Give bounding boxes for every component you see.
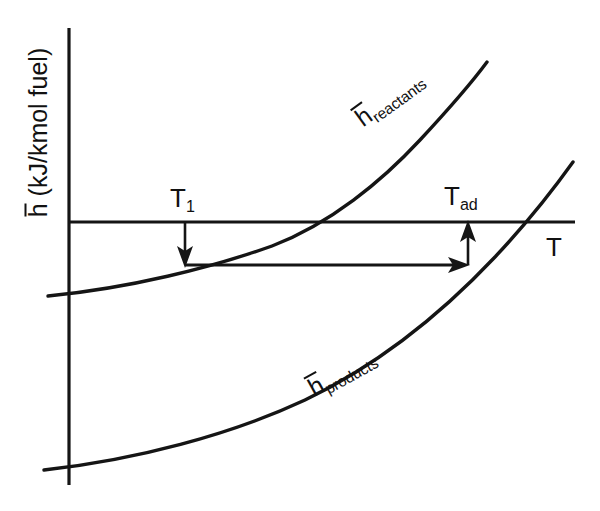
t1-subscript: 1 xyxy=(186,197,195,215)
curve-reactants xyxy=(48,62,487,296)
t1-symbol: T xyxy=(170,183,186,213)
tad-arrow xyxy=(460,220,476,265)
tad-subscript: ad xyxy=(460,195,478,213)
thermodynamics-figure: h (kJ/kmol fuel) T1 Tad T hreactants hpr… xyxy=(0,0,600,511)
tad-symbol: T xyxy=(444,181,460,211)
figure-canvas xyxy=(0,0,600,511)
t1-label: T1 xyxy=(170,185,195,211)
curve-products xyxy=(44,162,573,470)
y-axis-units: (kJ/kmol fuel) xyxy=(24,48,52,197)
t1-arrow xyxy=(177,222,193,268)
x-axis-label: T xyxy=(546,234,562,260)
y-axis-label: h (kJ/kmol fuel) xyxy=(26,33,51,233)
y-axis-symbol: h xyxy=(26,203,51,217)
tad-label: Tad xyxy=(444,183,478,209)
